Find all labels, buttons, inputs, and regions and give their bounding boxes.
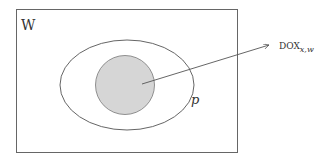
- dox-label-subscript: x,w: [300, 45, 314, 54]
- diagram-canvas: W p DOXx,w: [0, 0, 334, 168]
- world-label: W: [21, 17, 36, 33]
- arrow: [142, 45, 269, 84]
- proposition-label: p: [191, 92, 200, 107]
- dox-label: DOXx,w: [279, 41, 314, 54]
- dox-region-circle: [96, 56, 155, 115]
- dox-label-main: DOX: [279, 41, 300, 51]
